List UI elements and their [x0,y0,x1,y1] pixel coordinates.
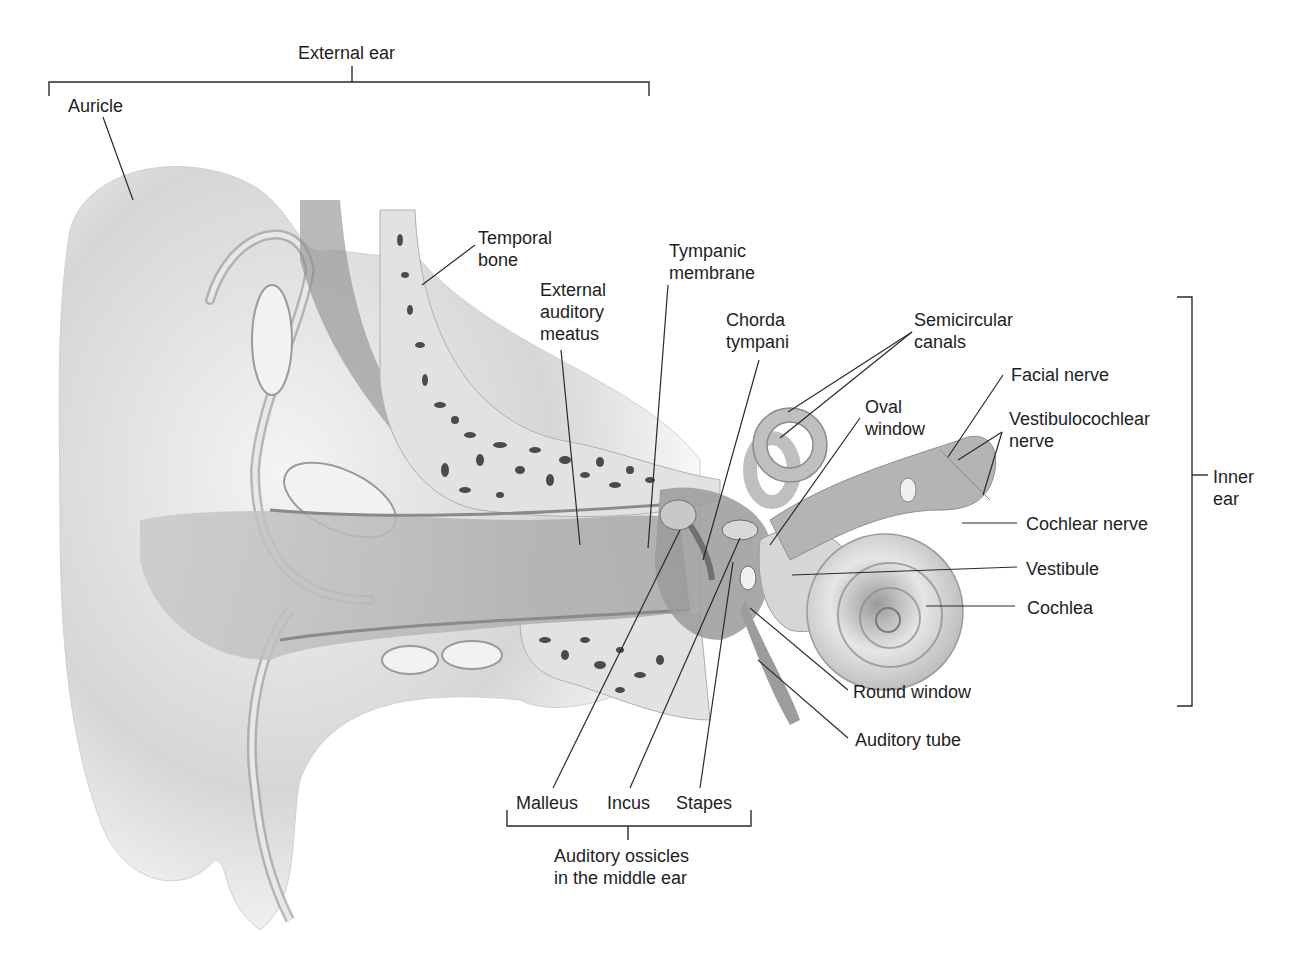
label-stapes: Stapes [676,792,732,814]
label-facial-nerve: Facial nerve [1011,364,1109,386]
label-vestibulocochlear-nerve: Vestibulocochlear nerve [1009,408,1150,452]
label-cochlear-nerve: Cochlear nerve [1026,513,1148,535]
label-temporal-bone: Temporal bone [478,227,552,271]
label-round-window: Round window [853,681,971,703]
ossicles-bracket [507,810,751,840]
inner-ear-bracket [1177,297,1208,706]
label-incus: Incus [607,792,650,814]
group-label-ossicles: Auditory ossicles in the middle ear [554,845,689,889]
label-external-auditory-meatus: External auditory meatus [540,279,606,345]
external-ear-bracket [49,66,649,96]
label-auricle: Auricle [68,95,123,117]
label-semicircular-canals: Semicircular canals [914,309,1013,353]
group-label-external-ear: External ear [298,42,395,64]
label-malleus: Malleus [516,792,578,814]
label-oval-window: Oval window [865,396,925,440]
label-auditory-tube: Auditory tube [855,729,961,751]
label-vestibule: Vestibule [1026,558,1099,580]
group-label-inner-ear: Inner ear [1213,466,1254,510]
label-chorda-tympani: Chorda tympani [726,309,789,353]
label-cochlea: Cochlea [1027,597,1093,619]
label-tympanic-membrane: Tympanic membrane [669,240,755,284]
